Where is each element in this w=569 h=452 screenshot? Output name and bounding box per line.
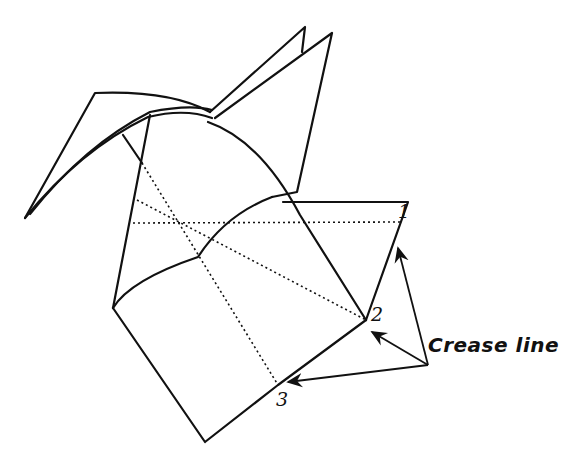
crease-line-diagonal	[137, 200, 366, 320]
arrow-to-1	[398, 248, 428, 365]
label-point-2: 2	[371, 303, 383, 325]
top-flap	[210, 27, 305, 112]
fold-drawing	[0, 0, 569, 452]
label-point-1: 1	[398, 200, 410, 222]
crease-line-vertical	[142, 163, 278, 385]
origami-diagram: 1 2 3 Crease line	[0, 0, 569, 452]
left-wing	[25, 93, 210, 218]
crease-line-label: Crease line	[428, 333, 559, 357]
crease-line-horizontal	[133, 222, 400, 223]
arrow-to-3	[288, 365, 428, 382]
label-point-3: 3	[276, 388, 288, 410]
arrow-to-2	[372, 332, 428, 365]
bottom-panel	[113, 308, 366, 442]
